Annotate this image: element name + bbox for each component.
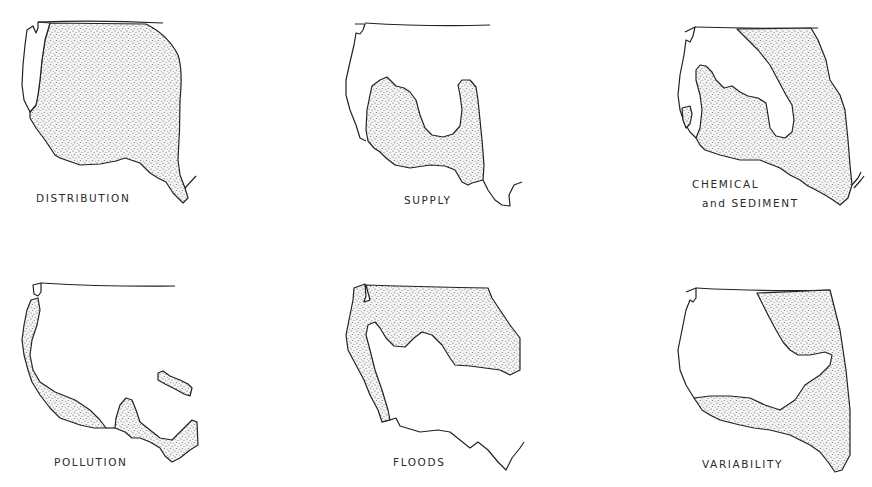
pollution-map bbox=[0, 270, 220, 487]
chemical-sediment-map bbox=[620, 0, 872, 230]
variability-map bbox=[650, 270, 872, 487]
map-panel-supply: SUPPLY bbox=[290, 0, 540, 220]
label-and-sediment: and SEDIMENT bbox=[702, 197, 799, 210]
map-panel-variability: VARIABILITY bbox=[650, 270, 872, 487]
map-panel-chemical-sediment: CHEMICAL and SEDIMENT bbox=[620, 0, 872, 230]
map-panel-pollution: POLLUTION bbox=[0, 270, 220, 487]
label-chemical: CHEMICAL bbox=[692, 178, 759, 191]
map-panel-floods: FLOODS bbox=[320, 270, 540, 487]
supply-map bbox=[290, 0, 540, 220]
map-panel-distribution: DISTRIBUTION bbox=[0, 0, 220, 220]
label-distribution: DISTRIBUTION bbox=[36, 192, 130, 205]
floods-map bbox=[320, 270, 540, 487]
label-pollution: POLLUTION bbox=[54, 456, 128, 469]
label-floods: FLOODS bbox=[393, 456, 445, 469]
label-supply: SUPPLY bbox=[404, 194, 451, 207]
distribution-map bbox=[0, 0, 220, 220]
label-variability: VARIABILITY bbox=[702, 458, 783, 471]
